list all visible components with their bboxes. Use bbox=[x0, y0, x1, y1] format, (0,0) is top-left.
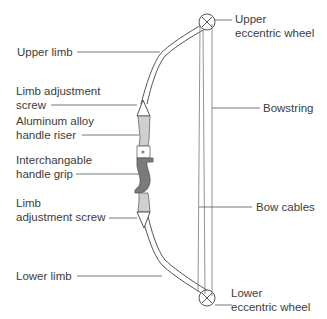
lower-eccentric-wheel bbox=[199, 290, 215, 306]
label-limb-adjustment-screw-bottom-line2: adjustment screw bbox=[16, 210, 105, 224]
label-handle-riser-line2: handle riser bbox=[16, 128, 76, 142]
handle-grip bbox=[135, 158, 153, 193]
bow-cable bbox=[203, 30, 205, 294]
label-bowstring: Bowstring bbox=[263, 101, 314, 115]
label-bow-cables: Bow cables bbox=[256, 200, 315, 214]
upper-eccentric-wheel bbox=[199, 14, 215, 30]
label-upper-eccentric-wheel: Upper bbox=[235, 12, 266, 26]
lower-limb-adjustment-screw bbox=[137, 212, 150, 228]
bowstring-and-cables bbox=[198, 24, 212, 296]
label-limb-adjustment-screw-bottom: Limb bbox=[16, 196, 41, 210]
label-lower-eccentric-wheel-line2: eccentric wheel bbox=[231, 300, 310, 314]
label-limb-adjustment-screw-top-line2: screw bbox=[16, 98, 46, 112]
label-upper-limb: Upper limb bbox=[17, 45, 73, 59]
lower-limb bbox=[141, 212, 212, 298]
label-limb-adjustment-screw-top: Limb adjustment bbox=[16, 84, 100, 98]
label-handle-grip-line2: handle grip bbox=[16, 167, 73, 181]
upper-limb bbox=[141, 20, 212, 104]
label-lower-limb: Lower limb bbox=[16, 269, 72, 283]
handle-riser bbox=[138, 116, 150, 146]
label-handle-grip: Interchangable bbox=[16, 153, 92, 167]
label-lower-eccentric-wheel: Lower bbox=[231, 286, 262, 300]
bow-cable bbox=[198, 26, 200, 292]
upper-limb-adjustment-screw bbox=[137, 100, 150, 116]
label-handle-riser: Aluminum alloy bbox=[16, 114, 94, 128]
label-upper-eccentric-wheel-line2: eccentric wheel bbox=[235, 26, 314, 40]
